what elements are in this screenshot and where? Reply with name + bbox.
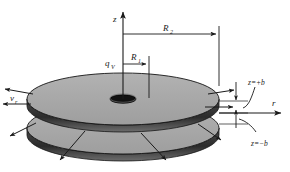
r-axis-label: r — [272, 98, 276, 108]
z-minus-b-label: z=−b — [250, 139, 268, 148]
r1-label-subscript: 1 — [138, 58, 141, 64]
qv-label: q — [105, 58, 110, 68]
figure-canvas: z r R 2 R 1 q V v r — [0, 0, 290, 172]
r1-label: R — [130, 52, 137, 62]
z-plus-b-label: z=+b — [247, 78, 265, 87]
radial-diffuser-diagram: z r R 2 R 1 q V v r — [0, 0, 290, 172]
r2-label: R — [162, 23, 169, 33]
z-axis-label: z — [112, 14, 117, 24]
vr-label: v — [10, 93, 14, 103]
r2-label-subscript: 2 — [170, 29, 173, 35]
